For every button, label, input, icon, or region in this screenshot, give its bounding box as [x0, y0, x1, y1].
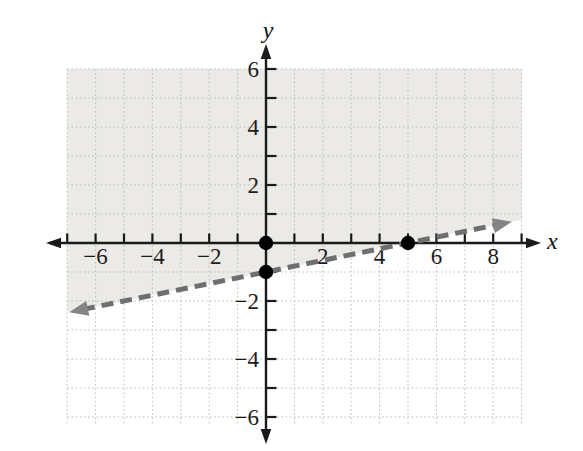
x-tick-label: −6	[83, 244, 107, 269]
y-tick-label: −6	[235, 405, 259, 430]
x-tick-label: 2	[317, 244, 329, 269]
y-axis-label: y	[261, 17, 274, 43]
x-axis-label: x	[546, 228, 558, 254]
plotted-point	[401, 236, 415, 250]
plotted-point	[259, 236, 273, 250]
x-tick-label: −2	[197, 244, 221, 269]
y-tick-label: 6	[248, 57, 260, 82]
graph-figure: −6−4−22468642−2−4−6 x y	[0, 0, 583, 451]
y-tick-label: 2	[248, 173, 260, 198]
plot-area: −6−4−22468642−2−4−6	[46, 44, 541, 444]
y-tick-label: −4	[235, 347, 260, 372]
y-tick-label: 4	[248, 115, 260, 140]
x-tick-label: 6	[431, 244, 443, 269]
x-tick-label: 8	[487, 244, 499, 269]
plotted-point	[259, 265, 273, 279]
coordinate-plane-graph: −6−4−22468642−2−4−6 x y	[0, 0, 583, 451]
y-tick-label: −2	[235, 289, 259, 314]
x-tick-label: −4	[140, 244, 165, 269]
